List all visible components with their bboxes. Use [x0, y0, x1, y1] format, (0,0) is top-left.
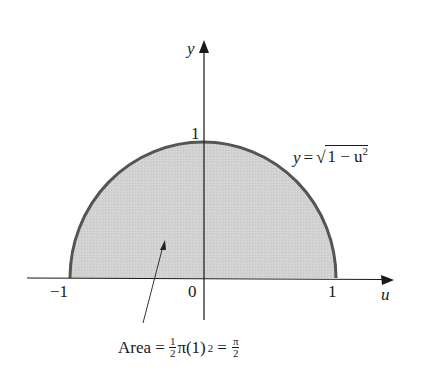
curve-lhs: y	[293, 149, 301, 166]
y-axis-arrow-icon	[199, 40, 209, 53]
semicircle-diagram	[0, 0, 421, 382]
frac1-denominator: 2	[169, 348, 177, 359]
caption-fraction-half: 1 2	[169, 336, 177, 359]
x-tick-1: 1	[328, 283, 337, 300]
frac2-denominator: 2	[232, 348, 240, 359]
caption-exponent: 2	[208, 342, 214, 354]
x-axis-arrow-icon	[381, 275, 394, 285]
curve-sqrt: √ 1 − u2	[316, 145, 368, 166]
radicand-exponent: 2	[363, 145, 369, 157]
caption-eq: =	[217, 338, 227, 358]
x-tick-0: 0	[188, 283, 197, 300]
caption-fraction-pi-half: π 2	[232, 336, 240, 359]
y-axis-label: y	[187, 40, 195, 57]
curve-radicand: 1 − u2	[325, 145, 368, 166]
curve-equation-label: y = √ 1 − u2	[293, 145, 368, 166]
x-axis	[27, 278, 384, 280]
caption-prefix: Area =	[118, 338, 165, 358]
x-axis-label: u	[381, 286, 390, 303]
y-tick-1: 1	[191, 125, 200, 142]
curve-eq: =	[304, 149, 314, 166]
radical-sign-icon: √	[316, 149, 325, 166]
area-caption: Area = 1 2 π(1) 2 = π 2	[118, 336, 240, 359]
caption-middle: π(1)	[177, 338, 205, 358]
radicand-text: 1 − u	[327, 147, 362, 166]
x-tick-neg1: −1	[50, 283, 68, 300]
